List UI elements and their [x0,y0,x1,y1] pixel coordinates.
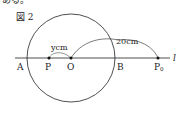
arc-ycm [49,53,71,58]
label-ycm: ycm [50,43,68,52]
label-p: P [45,62,51,72]
label-o: O [67,62,74,72]
label-p0: P0 [154,62,164,72]
label-a: A [16,62,24,72]
figure-2-diagram: ある。 図 2 A P O B P0 l ycm 20cm [0,0,183,114]
point-p [48,57,51,60]
point-o [70,57,73,60]
point-p0 [157,57,160,60]
header-fragment: ある。 [2,0,29,5]
label-20cm: 20cm [116,37,139,46]
figure-title: 図 2 [16,12,34,22]
label-line-l: l [173,53,176,63]
arc-20cm [71,39,158,58]
label-b: B [117,62,124,72]
